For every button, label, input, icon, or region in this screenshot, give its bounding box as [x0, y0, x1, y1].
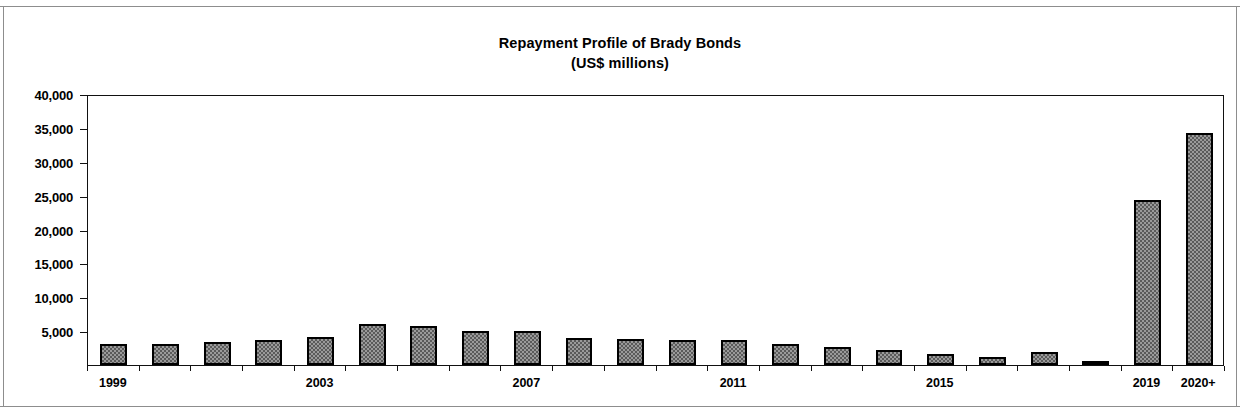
x-axis-tick-mark	[1017, 366, 1018, 371]
bar-2018	[1082, 361, 1109, 365]
bar-2003	[307, 337, 334, 365]
y-axis-tick-mark	[80, 298, 87, 299]
y-axis-tick-mark	[80, 95, 87, 96]
y-axis: 40,00035,00030,00025,00020,00015,00010,0…	[0, 88, 87, 378]
x-axis-tick-mark	[294, 366, 295, 371]
y-axis-tick-label: 40,000	[34, 88, 73, 103]
y-axis-tick-mark	[80, 163, 87, 164]
x-axis-tick-mark	[139, 366, 140, 371]
x-axis-tick-label: 2019	[1133, 376, 1160, 390]
bar-2000	[152, 344, 179, 365]
x-axis-tick-mark	[449, 366, 450, 371]
x-axis-tick-mark	[914, 366, 915, 371]
bar-2013	[824, 347, 851, 365]
x-axis-tick-mark	[345, 366, 346, 371]
bar-2016	[979, 357, 1006, 365]
x-axis-tick-mark	[707, 366, 708, 371]
x-axis-tick-mark	[604, 366, 605, 371]
chart-page: Repayment Profile of Brady Bonds (US$ mi…	[0, 0, 1240, 413]
x-axis-tick-mark	[397, 366, 398, 371]
x-axis-tick-mark	[1172, 366, 1173, 371]
y-axis-tick-mark	[80, 264, 87, 265]
chart-title-block: Repayment Profile of Brady Bonds (US$ mi…	[0, 34, 1240, 73]
y-axis-tick-label: 20,000	[34, 223, 73, 238]
x-axis-tick-mark	[190, 366, 191, 371]
chart-title: Repayment Profile of Brady Bonds	[0, 34, 1240, 54]
bar-2007	[514, 331, 541, 365]
y-axis-tick-label: 30,000	[34, 155, 73, 170]
y-axis-tick-mark	[80, 129, 87, 130]
page-frame-bottom-rule	[0, 406, 1240, 407]
x-axis-tick-label: 1999	[99, 376, 126, 390]
y-axis-tick-label: 15,000	[34, 257, 73, 272]
bar-2011	[721, 340, 748, 365]
y-axis-tick-mark	[80, 197, 87, 198]
y-axis-tick-label: 25,000	[34, 189, 73, 204]
y-axis-tick-label: 35,000	[34, 121, 73, 136]
bar-2005	[410, 326, 437, 365]
x-axis-tick-label: 2011	[720, 376, 747, 390]
bar-2001	[204, 342, 231, 365]
x-axis-tick-mark	[242, 366, 243, 371]
x-axis-tick-mark	[811, 366, 812, 371]
chart-subtitle: (US$ millions)	[0, 54, 1240, 74]
x-axis-tick-mark	[1069, 366, 1070, 371]
bar-2017	[1031, 352, 1058, 365]
x-axis-tick-label: 2020+	[1181, 376, 1216, 390]
x-axis-tick-mark	[552, 366, 553, 371]
x-axis-tick-mark	[87, 366, 88, 371]
y-axis-tick-mark	[80, 332, 87, 333]
y-axis-tick-mark	[80, 231, 87, 232]
bar-2008	[566, 338, 593, 365]
x-axis: 1999200320072011201520192020+	[87, 366, 1224, 406]
y-axis-tick-label: 5,000	[41, 325, 73, 340]
x-axis-tick-mark	[500, 366, 501, 371]
x-axis-tick-mark	[1224, 366, 1225, 371]
x-axis-tick-label: 2003	[306, 376, 333, 390]
x-axis-tick-mark	[966, 366, 967, 371]
x-axis-tick-mark	[759, 366, 760, 371]
bar-2020+	[1186, 133, 1213, 365]
x-axis-tick-label: 2015	[926, 376, 953, 390]
x-axis-tick-mark	[862, 366, 863, 371]
bar-2006	[462, 331, 489, 365]
bar-2010	[669, 340, 696, 365]
bar-2014	[876, 350, 903, 365]
bar-1999	[100, 344, 127, 365]
bar-2019	[1134, 200, 1161, 365]
plot-area	[87, 95, 1224, 366]
bar-2015	[927, 354, 954, 365]
bars-container	[88, 96, 1223, 365]
x-axis-tick-label: 2007	[513, 376, 540, 390]
x-axis-tick-mark	[1121, 366, 1122, 371]
bar-2012	[772, 344, 799, 365]
bar-2004	[359, 324, 386, 365]
y-axis-tick-label: 10,000	[34, 291, 73, 306]
x-axis-tick-mark	[656, 366, 657, 371]
bar-2002	[255, 340, 282, 365]
page-frame-top-rule	[0, 6, 1240, 7]
bar-2009	[617, 339, 644, 365]
